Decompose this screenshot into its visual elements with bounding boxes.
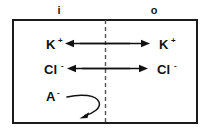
arrowhead-chloride-efflux-right: [139, 65, 148, 72]
arrowhead-potassium-influx-left: [65, 40, 74, 47]
ion-charge-potassium-outside: +: [171, 36, 176, 45]
curved-arrow-anion-blocked: [67, 95, 99, 115]
ion-label-chloride-inside: Cl: [44, 62, 57, 77]
arrowhead-anion-blocked: [80, 112, 90, 118]
ion-charge-potassium-inside: +: [58, 36, 63, 45]
ion-charge-chloride-inside: -: [61, 61, 64, 70]
ion-label-chloride-outside: Cl: [157, 62, 170, 77]
arrowhead-potassium-efflux-right: [141, 40, 150, 47]
diagram-canvas: i o K + K + Cl - Cl - A -: [0, 0, 211, 130]
ion-charge-chloride-outside: -: [174, 61, 177, 70]
ion-label-potassium-inside: K: [46, 37, 56, 52]
ion-label-potassium-outside: K: [159, 37, 169, 52]
membrane-diagram: i o K + K + Cl - Cl - A -: [0, 0, 211, 130]
compartment-label-inside: i: [57, 4, 60, 16]
compartment-label-outside: o: [151, 4, 158, 16]
ion-label-anion-inside: A: [46, 89, 56, 104]
ion-charge-anion-inside: -: [57, 88, 60, 97]
arrowhead-chloride-influx-left: [67, 65, 76, 72]
